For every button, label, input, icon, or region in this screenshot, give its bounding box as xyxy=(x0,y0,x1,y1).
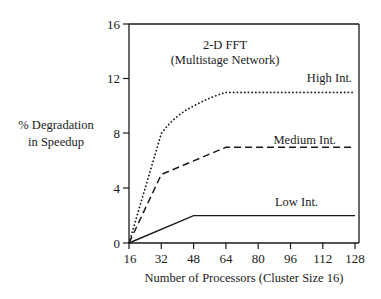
chart-subtitle: (Multistage Network) xyxy=(171,53,280,67)
x-axis-label: Number of Processors (Cluster Size 16) xyxy=(145,271,344,285)
series-label-high: High Int. xyxy=(307,71,352,85)
chart-title: 2-D FFT xyxy=(203,38,247,52)
y-tick-label: 16 xyxy=(107,17,121,32)
series-high-int xyxy=(129,92,355,243)
x-tick-label: 96 xyxy=(284,251,298,266)
y-tick-labels: 0 4 8 12 16 xyxy=(107,17,121,251)
y-tick-label: 0 xyxy=(114,236,121,251)
series-label-low: Low Int. xyxy=(275,195,318,209)
x-tick-label: 16 xyxy=(124,251,138,266)
x-tick-label: 64 xyxy=(219,251,233,266)
x-tick-label: 80 xyxy=(252,251,265,266)
y-tick-label: 4 xyxy=(114,181,121,196)
y-tick-label: 12 xyxy=(107,71,120,86)
x-tick-label: 32 xyxy=(155,251,168,266)
y-tick-label: 8 xyxy=(114,126,121,141)
x-tick-label: 128 xyxy=(345,251,365,266)
y-ticks xyxy=(123,24,129,243)
series-low-int xyxy=(129,216,355,243)
chart: 0 4 8 12 16 16 32 48 64 80 96 112 128 Nu… xyxy=(0,0,381,299)
series-label-medium: Medium Int. xyxy=(274,133,337,147)
x-tick-label: 112 xyxy=(313,251,332,266)
x-tick-labels: 16 32 48 64 80 96 112 128 xyxy=(124,251,365,266)
y-axis-label-line1: % Degradation xyxy=(18,118,94,132)
y-axis-label-line2: in Speedup xyxy=(28,135,84,149)
x-ticks xyxy=(129,243,355,249)
x-tick-label: 48 xyxy=(187,251,200,266)
